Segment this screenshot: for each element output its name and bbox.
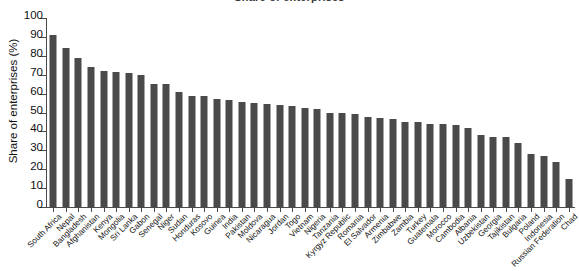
bar[interactable] [87, 67, 94, 207]
bar-slot [500, 18, 513, 207]
bar[interactable] [289, 106, 296, 207]
bar-slot [424, 18, 437, 207]
chart-title: Share of enterprises [0, 0, 579, 3]
y-tick-label: 20 [13, 161, 43, 173]
bar-slot [198, 18, 211, 207]
x-axis-line [46, 207, 575, 208]
bar-slot [412, 18, 425, 207]
y-tick-label: 80 [13, 48, 43, 60]
bar-slot [525, 18, 538, 207]
bar-slot [298, 18, 311, 207]
bar[interactable] [565, 179, 572, 207]
bar[interactable] [100, 71, 107, 207]
y-tick-label: 90 [13, 29, 43, 41]
bar-slot [386, 18, 399, 207]
bar-slot [349, 18, 362, 207]
bar-slot [173, 18, 186, 207]
bar[interactable] [75, 58, 82, 207]
bar[interactable] [314, 109, 321, 207]
bar-slot [273, 18, 286, 207]
y-tick-label: 50 [13, 105, 43, 117]
bar-slot [135, 18, 148, 207]
bar-slot [361, 18, 374, 207]
bar-slot [324, 18, 337, 207]
bar[interactable] [414, 122, 421, 207]
bar-slot [399, 18, 412, 207]
bar[interactable] [439, 124, 446, 207]
bar-slot [85, 18, 98, 207]
y-tick-label: 40 [13, 123, 43, 135]
bar-slot [110, 18, 123, 207]
y-tick-label: 0 [13, 199, 43, 211]
bar[interactable] [389, 119, 396, 207]
bar-slot [261, 18, 274, 207]
bar-slot [60, 18, 73, 207]
bar-slot [512, 18, 525, 207]
bar[interactable] [62, 48, 69, 207]
bar[interactable] [276, 105, 283, 207]
bar[interactable] [238, 102, 245, 207]
bar[interactable] [201, 96, 208, 207]
bar[interactable] [326, 113, 333, 208]
bar-slot [72, 18, 85, 207]
y-tick-0: 0 [46, 207, 47, 208]
bar[interactable] [364, 117, 371, 207]
bar-slot [286, 18, 299, 207]
y-tick-label: 30 [13, 142, 43, 154]
bar-slot [148, 18, 161, 207]
bar[interactable] [175, 92, 182, 207]
bar-slot [449, 18, 462, 207]
bar[interactable] [226, 100, 233, 207]
x-axis-labels: South AfricaNepalBangladeshAfghanistanKe… [46, 212, 579, 271]
y-tick-label: 100 [13, 10, 43, 22]
bar-slot [47, 18, 60, 207]
bar-slot [236, 18, 249, 207]
bar[interactable] [339, 113, 346, 207]
bar-slot [97, 18, 110, 207]
bar[interactable] [188, 96, 195, 208]
bar-slot [185, 18, 198, 207]
bar-slot [223, 18, 236, 207]
bar[interactable] [502, 137, 509, 207]
bar[interactable] [540, 156, 547, 207]
bar-slot [462, 18, 475, 207]
bar-series [47, 18, 575, 207]
bar[interactable] [553, 162, 560, 207]
bar-slot [550, 18, 563, 207]
bar[interactable] [351, 114, 358, 207]
bar-chart: Share of enterprises Share of enterprise… [0, 0, 579, 271]
bar[interactable] [138, 75, 145, 207]
bar-slot [311, 18, 324, 207]
bar[interactable] [452, 125, 459, 207]
y-tick-label: 10 [13, 180, 43, 192]
bar[interactable] [465, 128, 472, 207]
bar[interactable] [263, 104, 270, 207]
bar[interactable] [50, 35, 57, 207]
bar-slot [374, 18, 387, 207]
bar[interactable] [150, 84, 157, 207]
bar[interactable] [301, 108, 308, 207]
bar-slot [537, 18, 550, 207]
bar-slot [160, 18, 173, 207]
bar-slot [487, 18, 500, 207]
bar[interactable] [490, 137, 497, 207]
bar-slot [562, 18, 575, 207]
bar-slot [336, 18, 349, 207]
bar-slot [122, 18, 135, 207]
bar[interactable] [427, 124, 434, 207]
bar-slot [437, 18, 450, 207]
bar-slot [248, 18, 261, 207]
bar[interactable] [113, 72, 120, 207]
bar[interactable] [402, 122, 409, 207]
bar[interactable] [125, 73, 132, 207]
y-tick-label: 60 [13, 86, 43, 98]
bar[interactable] [377, 118, 384, 207]
bar[interactable] [527, 154, 534, 207]
bar[interactable] [515, 143, 522, 207]
bar[interactable] [163, 84, 170, 207]
bar-slot [210, 18, 223, 207]
bar-slot [474, 18, 487, 207]
bar[interactable] [213, 99, 220, 207]
bar[interactable] [477, 135, 484, 207]
bar[interactable] [251, 103, 258, 207]
